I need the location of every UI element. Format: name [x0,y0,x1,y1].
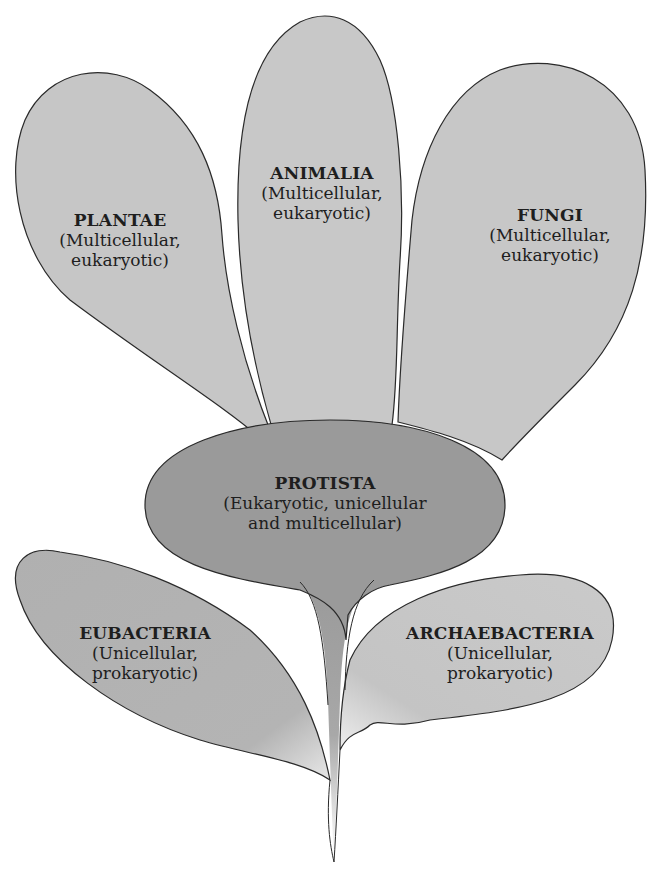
protista-name: PROTISTA [195,473,455,493]
eubacteria-label: EUBACTERIA (Unicellular, prokaryotic) [60,623,230,683]
plantae-desc-1: (Multicellular, [35,230,205,250]
fungi-label: FUNGI (Multicellular, eukaryotic) [470,205,630,265]
eubacteria-desc-1: (Unicellular, [60,643,230,663]
animalia-desc-2: eukaryotic) [242,203,402,223]
protista-desc-1: (Eukaryotic, unicellular [195,493,455,513]
fungi-desc-1: (Multicellular, [470,225,630,245]
kingdom-tree-diagram [0,0,655,884]
archaebacteria-desc-2: prokaryotic) [385,663,615,683]
archaebacteria-label: ARCHAEBACTERIA (Unicellular, prokaryotic… [385,623,615,683]
animalia-desc-1: (Multicellular, [242,183,402,203]
protista-desc-2: and multicellular) [195,513,455,533]
eubacteria-name: EUBACTERIA [60,623,230,643]
fungi-name: FUNGI [470,205,630,225]
plantae-label: PLANTAE (Multicellular, eukaryotic) [35,210,205,270]
eubacteria-desc-2: prokaryotic) [60,663,230,683]
animalia-name: ANIMALIA [242,163,402,183]
archaebacteria-name: ARCHAEBACTERIA [385,623,615,643]
plantae-name: PLANTAE [35,210,205,230]
protista-label: PROTISTA (Eukaryotic, unicellular and mu… [195,473,455,533]
fungi-desc-2: eukaryotic) [470,245,630,265]
animalia-label: ANIMALIA (Multicellular, eukaryotic) [242,163,402,223]
archaebacteria-desc-1: (Unicellular, [385,643,615,663]
plantae-desc-2: eukaryotic) [35,250,205,270]
